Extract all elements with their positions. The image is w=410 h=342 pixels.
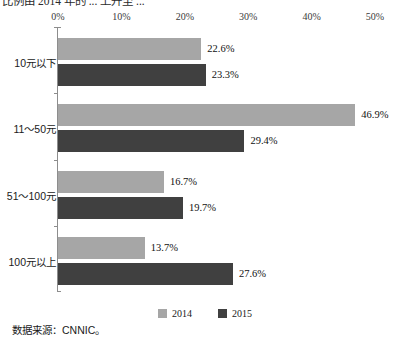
legend-item-2014[interactable]: 2014 <box>158 308 192 319</box>
x-axis-tick-3: 30% <box>239 11 257 22</box>
category-label-3: 100元以上 <box>8 254 56 269</box>
bar-2014-11～50元[interactable] <box>58 104 355 126</box>
bar-value-label-2015-10元以下: 23.3% <box>212 64 239 86</box>
bar-2015-51～100元[interactable] <box>58 197 183 219</box>
bar-value-label-2015-11～50元: 29.4% <box>250 130 277 152</box>
caption-clip: 比例由 2014 年的 ... 上升至 ... <box>0 0 410 9</box>
bar-value-label-2015-51～100元: 19.7% <box>189 197 216 219</box>
bar-2015-100元以上[interactable] <box>58 263 233 285</box>
legend-swatch-icon-2014 <box>158 309 167 318</box>
bar-value-label-2015-100元以上: 27.6% <box>239 263 266 285</box>
legend-label-2015: 2015 <box>232 308 252 319</box>
category-label-0: 10元以下 <box>14 55 56 70</box>
bar-value-label-2014-51～100元: 16.7% <box>170 171 197 193</box>
caption-text: 比例由 2014 年的 ... 上升至 ... <box>2 0 145 8</box>
y-axis-tick-0 <box>54 27 58 28</box>
bar-value-label-2014-11～50元: 46.9% <box>361 104 388 126</box>
y-axis-tick-2 <box>54 160 58 161</box>
bar-2015-11～50元[interactable] <box>58 130 244 152</box>
y-axis-bottom-cap <box>57 291 61 292</box>
x-axis-tick-1: 10% <box>112 11 130 22</box>
legend-label-2014: 2014 <box>172 308 192 319</box>
legend-item-2015[interactable]: 2015 <box>218 308 252 319</box>
bar-value-label-2014-100元以上: 13.7% <box>151 237 178 259</box>
category-label-1: 11～50元 <box>13 121 56 136</box>
x-axis-tick-2: 20% <box>176 11 194 22</box>
bar-value-label-2014-10元以下: 22.6% <box>207 38 234 60</box>
y-axis-tick-1 <box>54 93 58 94</box>
x-axis-tick-5: 50% <box>366 11 384 22</box>
plot-area: 22.6%23.3%46.9%29.4%16.7%19.7%13.7%27.6% <box>58 27 375 292</box>
bar-2014-100元以上[interactable] <box>58 237 145 259</box>
legend-swatch-icon-2015 <box>218 309 227 318</box>
x-axis-tick-0: 0% <box>51 11 64 22</box>
bar-chart: 0%10%20%30%40%50% 22.6%23.3%46.9%29.4%16… <box>0 9 410 309</box>
bar-2014-10元以下[interactable] <box>58 38 201 60</box>
category-label-2: 51～100元 <box>7 188 56 203</box>
x-axis-tick-4: 40% <box>302 11 320 22</box>
bar-2014-51～100元[interactable] <box>58 171 164 193</box>
bar-2015-10元以下[interactable] <box>58 64 206 86</box>
source-note: 数据来源：CNNIC。 <box>12 322 105 337</box>
chart-legend: 20142015 <box>0 305 410 321</box>
y-axis-tick-3 <box>54 226 58 227</box>
